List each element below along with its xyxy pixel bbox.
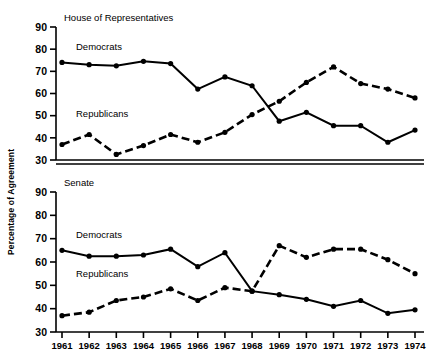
data-point-republicans [59, 142, 64, 147]
data-point-democrats [222, 250, 227, 255]
data-point-democrats [59, 60, 64, 65]
data-point-democrats [385, 140, 390, 145]
data-point-democrats [331, 304, 336, 309]
y-tick-label: 50 [35, 279, 47, 291]
data-point-republicans [168, 286, 173, 291]
data-point-democrats [412, 307, 417, 312]
y-tick-label: 60 [35, 256, 47, 268]
x-tick-label: 1964 [133, 340, 155, 351]
series-label-republicans: Republicans [76, 268, 129, 279]
data-point-democrats [195, 264, 200, 269]
y-tick-label: 70 [35, 65, 47, 77]
data-point-democrats [222, 74, 227, 79]
data-point-republicans [168, 132, 173, 137]
data-point-democrats [385, 311, 390, 316]
x-tick-label: 1970 [296, 340, 317, 351]
data-point-democrats [249, 83, 254, 88]
x-tick-label: 1967 [214, 340, 235, 351]
panel-senate: 9080706050403019611962196319641965196619… [35, 177, 426, 351]
data-point-republicans [222, 285, 227, 290]
data-point-democrats [114, 254, 119, 259]
data-point-republicans [114, 152, 119, 157]
data-point-democrats [195, 86, 200, 91]
panel-divider [56, 160, 424, 164]
panel-title: House of Representatives [64, 12, 174, 23]
data-point-republicans [249, 112, 254, 117]
data-point-democrats [277, 119, 282, 124]
data-point-democrats [358, 123, 363, 128]
data-point-republicans [195, 140, 200, 145]
data-point-republicans [277, 243, 282, 248]
data-point-democrats [168, 247, 173, 252]
y-tick-label: 90 [35, 186, 47, 198]
y-tick-label: 60 [35, 87, 47, 99]
chart-svg: Percentage of Agreement90807060504030Hou… [0, 0, 440, 363]
x-tick-label: 1963 [106, 340, 127, 351]
x-tick-label: 1966 [187, 340, 208, 351]
chart-figure: Percentage of Agreement90807060504030Hou… [0, 0, 440, 363]
x-tick-label: 1971 [323, 340, 345, 351]
data-point-republicans [195, 298, 200, 303]
y-tick-label: 90 [35, 21, 47, 33]
data-point-republicans [412, 95, 417, 100]
data-point-republicans [358, 247, 363, 252]
data-point-democrats [304, 297, 309, 302]
data-point-republicans [87, 132, 92, 137]
data-point-democrats [87, 254, 92, 259]
data-point-democrats [412, 127, 417, 132]
y-tick-label: 80 [35, 43, 47, 55]
x-tick-label: 1968 [242, 340, 263, 351]
data-point-democrats [168, 61, 173, 66]
series-label-democrats: Democrats [76, 41, 122, 52]
data-point-republicans [385, 86, 390, 91]
data-point-democrats [59, 248, 64, 253]
data-point-democrats [114, 63, 119, 68]
y-tick-label: 50 [35, 109, 47, 121]
data-point-democrats [304, 110, 309, 115]
data-point-republicans [331, 64, 336, 69]
data-point-republicans [304, 80, 309, 85]
x-tick-label: 1969 [269, 340, 290, 351]
data-point-republicans [331, 247, 336, 252]
data-point-democrats [141, 59, 146, 64]
data-point-republicans [277, 99, 282, 104]
series-line-democrats [62, 249, 415, 313]
x-tick-label: 1973 [377, 340, 398, 351]
panel-title: Senate [64, 177, 94, 188]
data-point-democrats [331, 123, 336, 128]
data-point-republicans [304, 255, 309, 260]
data-point-republicans [87, 310, 92, 315]
data-point-republicans [59, 313, 64, 318]
y-axis-label: Percentage of Agreement [6, 149, 16, 255]
series-label-republicans: Republicans [76, 108, 129, 119]
data-point-democrats [87, 62, 92, 67]
y-tick-label: 70 [35, 232, 47, 244]
data-point-republicans [141, 294, 146, 299]
data-point-democrats [358, 298, 363, 303]
data-point-republicans [114, 298, 119, 303]
data-point-republicans [358, 81, 363, 86]
data-point-republicans [141, 143, 146, 148]
x-tick-label: 1972 [350, 340, 371, 351]
data-point-republicans [249, 289, 254, 294]
data-point-democrats [141, 252, 146, 257]
data-point-democrats [277, 292, 282, 297]
data-point-republicans [222, 130, 227, 135]
y-tick-label: 40 [35, 132, 47, 144]
series-line-democrats [62, 61, 415, 142]
series-label-democrats: Democrats [76, 229, 122, 240]
data-point-republicans [412, 271, 417, 276]
x-tick-label: 1961 [51, 340, 73, 351]
data-point-republicans [385, 257, 390, 262]
y-tick-label: 40 [35, 302, 47, 314]
y-tick-label: 30 [35, 154, 47, 166]
y-tick-label: 80 [35, 209, 47, 221]
x-tick-label: 1962 [79, 340, 100, 351]
y-tick-label: 30 [35, 326, 47, 338]
x-tick-label: 1974 [404, 340, 426, 351]
x-tick-label: 1965 [160, 340, 182, 351]
panel-house: 90807060504030House of RepresentativesDe… [35, 12, 417, 166]
